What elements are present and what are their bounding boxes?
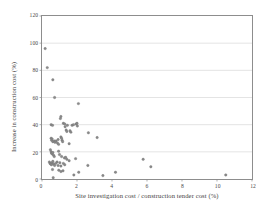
data-point (59, 161, 61, 163)
data-point (44, 47, 46, 49)
y-tick-label: 40 (16, 122, 38, 128)
data-point (70, 131, 72, 133)
plot-area (41, 15, 253, 180)
data-point (68, 159, 70, 161)
data-point (66, 158, 68, 160)
data-point (56, 161, 58, 163)
data-point (102, 174, 104, 176)
data-point (64, 164, 66, 166)
data-point (77, 102, 79, 104)
data-point (72, 123, 74, 125)
x-tick-label: 8 (174, 183, 190, 190)
data-point (58, 153, 60, 155)
data-point (53, 96, 55, 98)
data-point (52, 79, 54, 81)
data-point (74, 157, 76, 159)
data-point (96, 136, 98, 138)
x-tick-label: 0 (33, 183, 49, 190)
y-tick-label: 60 (16, 95, 38, 101)
data-point (87, 164, 89, 166)
data-point (73, 174, 75, 176)
y-tick-label: 80 (16, 67, 38, 73)
x-tick-label: 10 (210, 183, 226, 190)
data-point (87, 132, 89, 134)
data-point (57, 143, 59, 145)
data-point (114, 171, 116, 173)
data-point (52, 160, 54, 162)
data-point (64, 123, 66, 125)
data-point (51, 168, 53, 170)
y-axis-tick-labels: 020406080100120 (13, 15, 38, 180)
data-point (61, 140, 63, 142)
y-tick-label: 100 (16, 40, 38, 46)
data-point (68, 142, 70, 144)
data-point (51, 124, 53, 126)
data-point (60, 165, 62, 167)
data-point (60, 155, 62, 157)
data-point (76, 125, 78, 127)
data-point (51, 138, 53, 140)
data-point (66, 130, 68, 132)
data-point (78, 171, 80, 173)
data-point (225, 174, 227, 176)
y-tick-label: 120 (16, 12, 38, 18)
x-tick-label: 12 (245, 183, 261, 190)
data-point (46, 66, 48, 68)
data-point (52, 176, 54, 178)
x-axis-tick-labels: 024681012 (41, 183, 253, 191)
data-point (57, 150, 59, 152)
data-point (76, 122, 78, 124)
data-point (52, 151, 54, 153)
data-point (57, 164, 59, 166)
data-point (66, 124, 68, 126)
data-markers-layer (42, 16, 252, 179)
y-tick-label: 20 (16, 150, 38, 156)
data-point (142, 158, 144, 160)
x-tick-label: 2 (68, 183, 84, 190)
data-point (62, 170, 64, 172)
data-point (64, 125, 66, 127)
data-point (60, 115, 62, 117)
data-point (150, 166, 152, 168)
data-point (57, 138, 59, 140)
data-point (53, 155, 55, 157)
scatter-plot-figure: Increase in construction cost (%) 020406… (0, 0, 264, 214)
x-tick-label: 4 (104, 183, 120, 190)
x-tick-label: 6 (139, 183, 155, 190)
x-axis-title: Site investigation cost / construction t… (41, 192, 253, 199)
